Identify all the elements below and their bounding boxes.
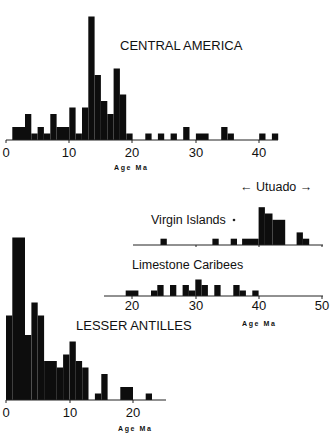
histogram-bar xyxy=(44,134,50,141)
limestone-caribees-bars xyxy=(126,280,259,297)
limestone-caribees-title: Limestone Caribees xyxy=(132,258,243,272)
central-america-x-label: Age Ma xyxy=(114,164,149,172)
histogram-figure: 0 10 20 30 40 Age Ma CENTRAL AMERICA ← U… xyxy=(0,0,330,438)
histogram-bar xyxy=(252,291,258,297)
histogram-bar xyxy=(158,134,164,141)
histogram-bar xyxy=(221,127,227,140)
histogram-bar xyxy=(265,214,273,246)
histogram-bar xyxy=(212,239,218,245)
histogram-bar xyxy=(151,291,157,297)
histogram-bar xyxy=(170,285,176,296)
tick-label: 10 xyxy=(62,145,76,160)
histogram-bar xyxy=(38,316,44,401)
lesser-antilles-x-label: Age Ma xyxy=(118,425,153,433)
tick-label: 20 xyxy=(125,298,139,313)
histogram-bar xyxy=(126,134,132,141)
tick-label: 40 xyxy=(252,145,266,160)
histogram-bar xyxy=(76,361,82,400)
histogram-bar xyxy=(171,134,177,141)
histogram-bar xyxy=(63,355,69,401)
histogram-bar xyxy=(76,134,82,141)
virgin-islands-marker-icon xyxy=(233,219,236,222)
histogram-bar xyxy=(146,394,152,401)
tick-label: 40 xyxy=(252,298,266,313)
central-america-title: CENTRAL AMERICA xyxy=(120,38,243,53)
histogram-bar xyxy=(6,316,12,401)
histogram-bar xyxy=(114,69,120,141)
histogram-bar xyxy=(88,17,94,141)
histogram-bar xyxy=(12,127,25,140)
histogram-bar xyxy=(231,239,237,245)
limestone-caribees-x-label: Age Ma xyxy=(242,320,277,328)
lesser-antilles-title: LESSER ANTILLES xyxy=(76,318,192,333)
histogram-bar xyxy=(57,127,70,140)
histogram-bar xyxy=(101,374,107,400)
tick-label: 30 xyxy=(189,145,203,160)
histogram-bar xyxy=(297,232,303,245)
histogram-bar xyxy=(50,114,56,140)
histogram-bar xyxy=(183,285,189,296)
histogram-bar xyxy=(161,239,167,245)
histogram-bar xyxy=(120,387,133,400)
histogram-bar xyxy=(214,285,220,296)
histogram-bar xyxy=(157,285,163,296)
histogram-bar xyxy=(31,303,37,401)
histogram-bar xyxy=(196,134,209,141)
histogram-bar xyxy=(107,114,113,140)
histogram-bar xyxy=(69,108,75,141)
histogram-bar xyxy=(120,95,126,141)
tick-label: 20 xyxy=(125,145,139,160)
tick-label: 0 xyxy=(2,405,9,420)
tick-label: 50 xyxy=(315,298,329,313)
central-america-histogram: 0 10 20 30 40 Age Ma CENTRAL AMERICA xyxy=(2,17,278,173)
histogram-bar xyxy=(82,368,88,401)
histogram-bar xyxy=(95,394,101,401)
histogram-bar xyxy=(101,101,107,140)
histogram-bar xyxy=(189,291,195,297)
central-america-bars xyxy=(12,17,278,141)
histogram-bar xyxy=(202,285,208,296)
histogram-bar xyxy=(31,134,37,141)
histogram-bar xyxy=(183,127,189,140)
histogram-bar xyxy=(25,335,31,400)
histogram-bar xyxy=(259,207,265,245)
histogram-bar xyxy=(145,134,151,141)
histogram-bar xyxy=(126,291,139,297)
histogram-bar xyxy=(70,342,76,401)
virgin-islands-histogram: ← Utuado → Virgin Islands xyxy=(133,180,323,247)
tick-label: 10 xyxy=(63,405,77,420)
tick-label: 20 xyxy=(126,405,140,420)
histogram-bar xyxy=(272,134,278,141)
histogram-bar xyxy=(195,280,201,297)
histogram-bar xyxy=(82,108,88,141)
histogram-bar xyxy=(12,238,25,401)
histogram-bar xyxy=(44,361,57,400)
histogram-bar xyxy=(303,239,309,245)
histogram-bar xyxy=(273,220,286,245)
virgin-islands-title: Virgin Islands xyxy=(151,213,226,227)
histogram-bar xyxy=(38,127,44,140)
histogram-bar xyxy=(25,114,31,140)
histogram-bar xyxy=(57,368,63,401)
utuado-annotation: ← Utuado → xyxy=(240,180,312,194)
tick-label: 0 xyxy=(2,145,9,160)
histogram-bar xyxy=(228,134,234,141)
histogram-bar xyxy=(240,291,246,297)
histogram-bar xyxy=(233,285,239,296)
histogram-bar xyxy=(242,239,259,245)
histogram-bar xyxy=(95,75,101,140)
histogram-bar xyxy=(259,134,265,141)
tick-label: 30 xyxy=(189,298,203,313)
